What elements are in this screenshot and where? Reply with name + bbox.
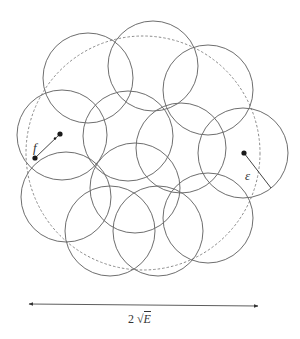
cover-circle-b [108,21,198,111]
cover-circle-i [136,103,226,193]
sqrt-symbol: √ [137,312,144,326]
cover-circle-h [83,91,173,181]
cover-circle-a [43,33,133,123]
dimension-label-prefix: 2 [128,312,134,326]
cover-circle-l [113,186,203,276]
f-end-point [57,131,62,136]
f-start-point [32,155,37,160]
center-point [241,150,246,155]
annotations [29,131,271,306]
covering-diagram [0,0,300,339]
epsilon-label: ε [245,168,250,184]
outer-dashed-circle [26,36,260,270]
dimension-arrow [29,304,258,306]
f-label: f [33,140,37,156]
cover-circle-e [21,152,111,242]
cover-circle-j [90,143,180,233]
cover-circle-c [163,45,253,135]
dimension-label: 2 √E [128,312,151,327]
cover-circle-g [163,173,253,263]
cover-circles [17,21,288,276]
f-segment [35,134,60,158]
f-mid-point [54,137,56,139]
outer-dashed-circle [26,36,260,270]
dimension-label-variable: E [144,311,151,326]
cover-circle-k [65,186,155,276]
